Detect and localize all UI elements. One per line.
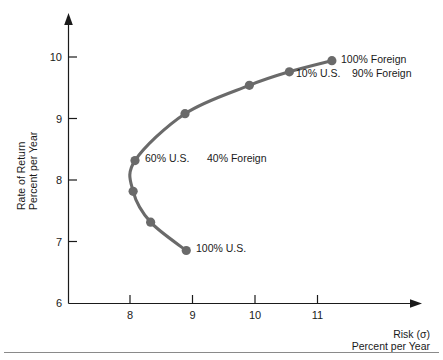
- x-tick-label-9: 9: [189, 309, 195, 321]
- y-axis-title-line2: Percent per Year: [27, 131, 39, 210]
- y-tick-label-8: 8: [56, 174, 62, 186]
- annotation-90-foreign: 90% Foreign: [352, 67, 412, 79]
- annotation-100-foreign: 100% Foreign: [341, 53, 407, 65]
- x-tick-label-11: 11: [312, 309, 323, 321]
- x-tick-label-10: 10: [249, 309, 261, 321]
- annotation-60-us: 60% U.S.: [145, 152, 189, 164]
- annotation-100-us: 100% U.S.: [196, 242, 246, 254]
- y-axis-title: Rate of Return Percent per Year: [15, 131, 39, 210]
- y-axis-title-line1: Rate of Return: [15, 142, 27, 210]
- data-point-25-us[interactable]: [245, 81, 254, 90]
- annotation-10-us: 10% U.S.: [296, 67, 340, 79]
- data-point-10-us[interactable]: [285, 67, 294, 76]
- annotation-40-foreign: 40% Foreign: [207, 152, 267, 164]
- y-tick-label-7: 7: [56, 236, 62, 248]
- chart-page: 10 9 8 7 6 8 9 10 11 Rate of Return Perc…: [0, 0, 443, 360]
- data-point-90-us[interactable]: [146, 218, 155, 227]
- x-axis-title-line2: Percent per Year: [352, 340, 431, 352]
- x-axis-title-line1: Risk (σ): [393, 328, 430, 340]
- x-tick-label-8: 8: [127, 309, 133, 321]
- y-tick-label-10: 10: [50, 51, 62, 63]
- data-point-100-us[interactable]: [182, 246, 191, 255]
- data-point-80-us[interactable]: [129, 187, 138, 196]
- data-point-100-foreign[interactable]: [327, 56, 336, 65]
- data-point-60-us[interactable]: [130, 156, 139, 165]
- data-point-40-us[interactable]: [180, 109, 189, 118]
- efficient-frontier-chart: 10 9 8 7 6 8 9 10 11 Rate of Return Perc…: [0, 0, 443, 360]
- y-tick-label-9: 9: [56, 113, 62, 125]
- y-tick-label-6: 6: [56, 297, 62, 309]
